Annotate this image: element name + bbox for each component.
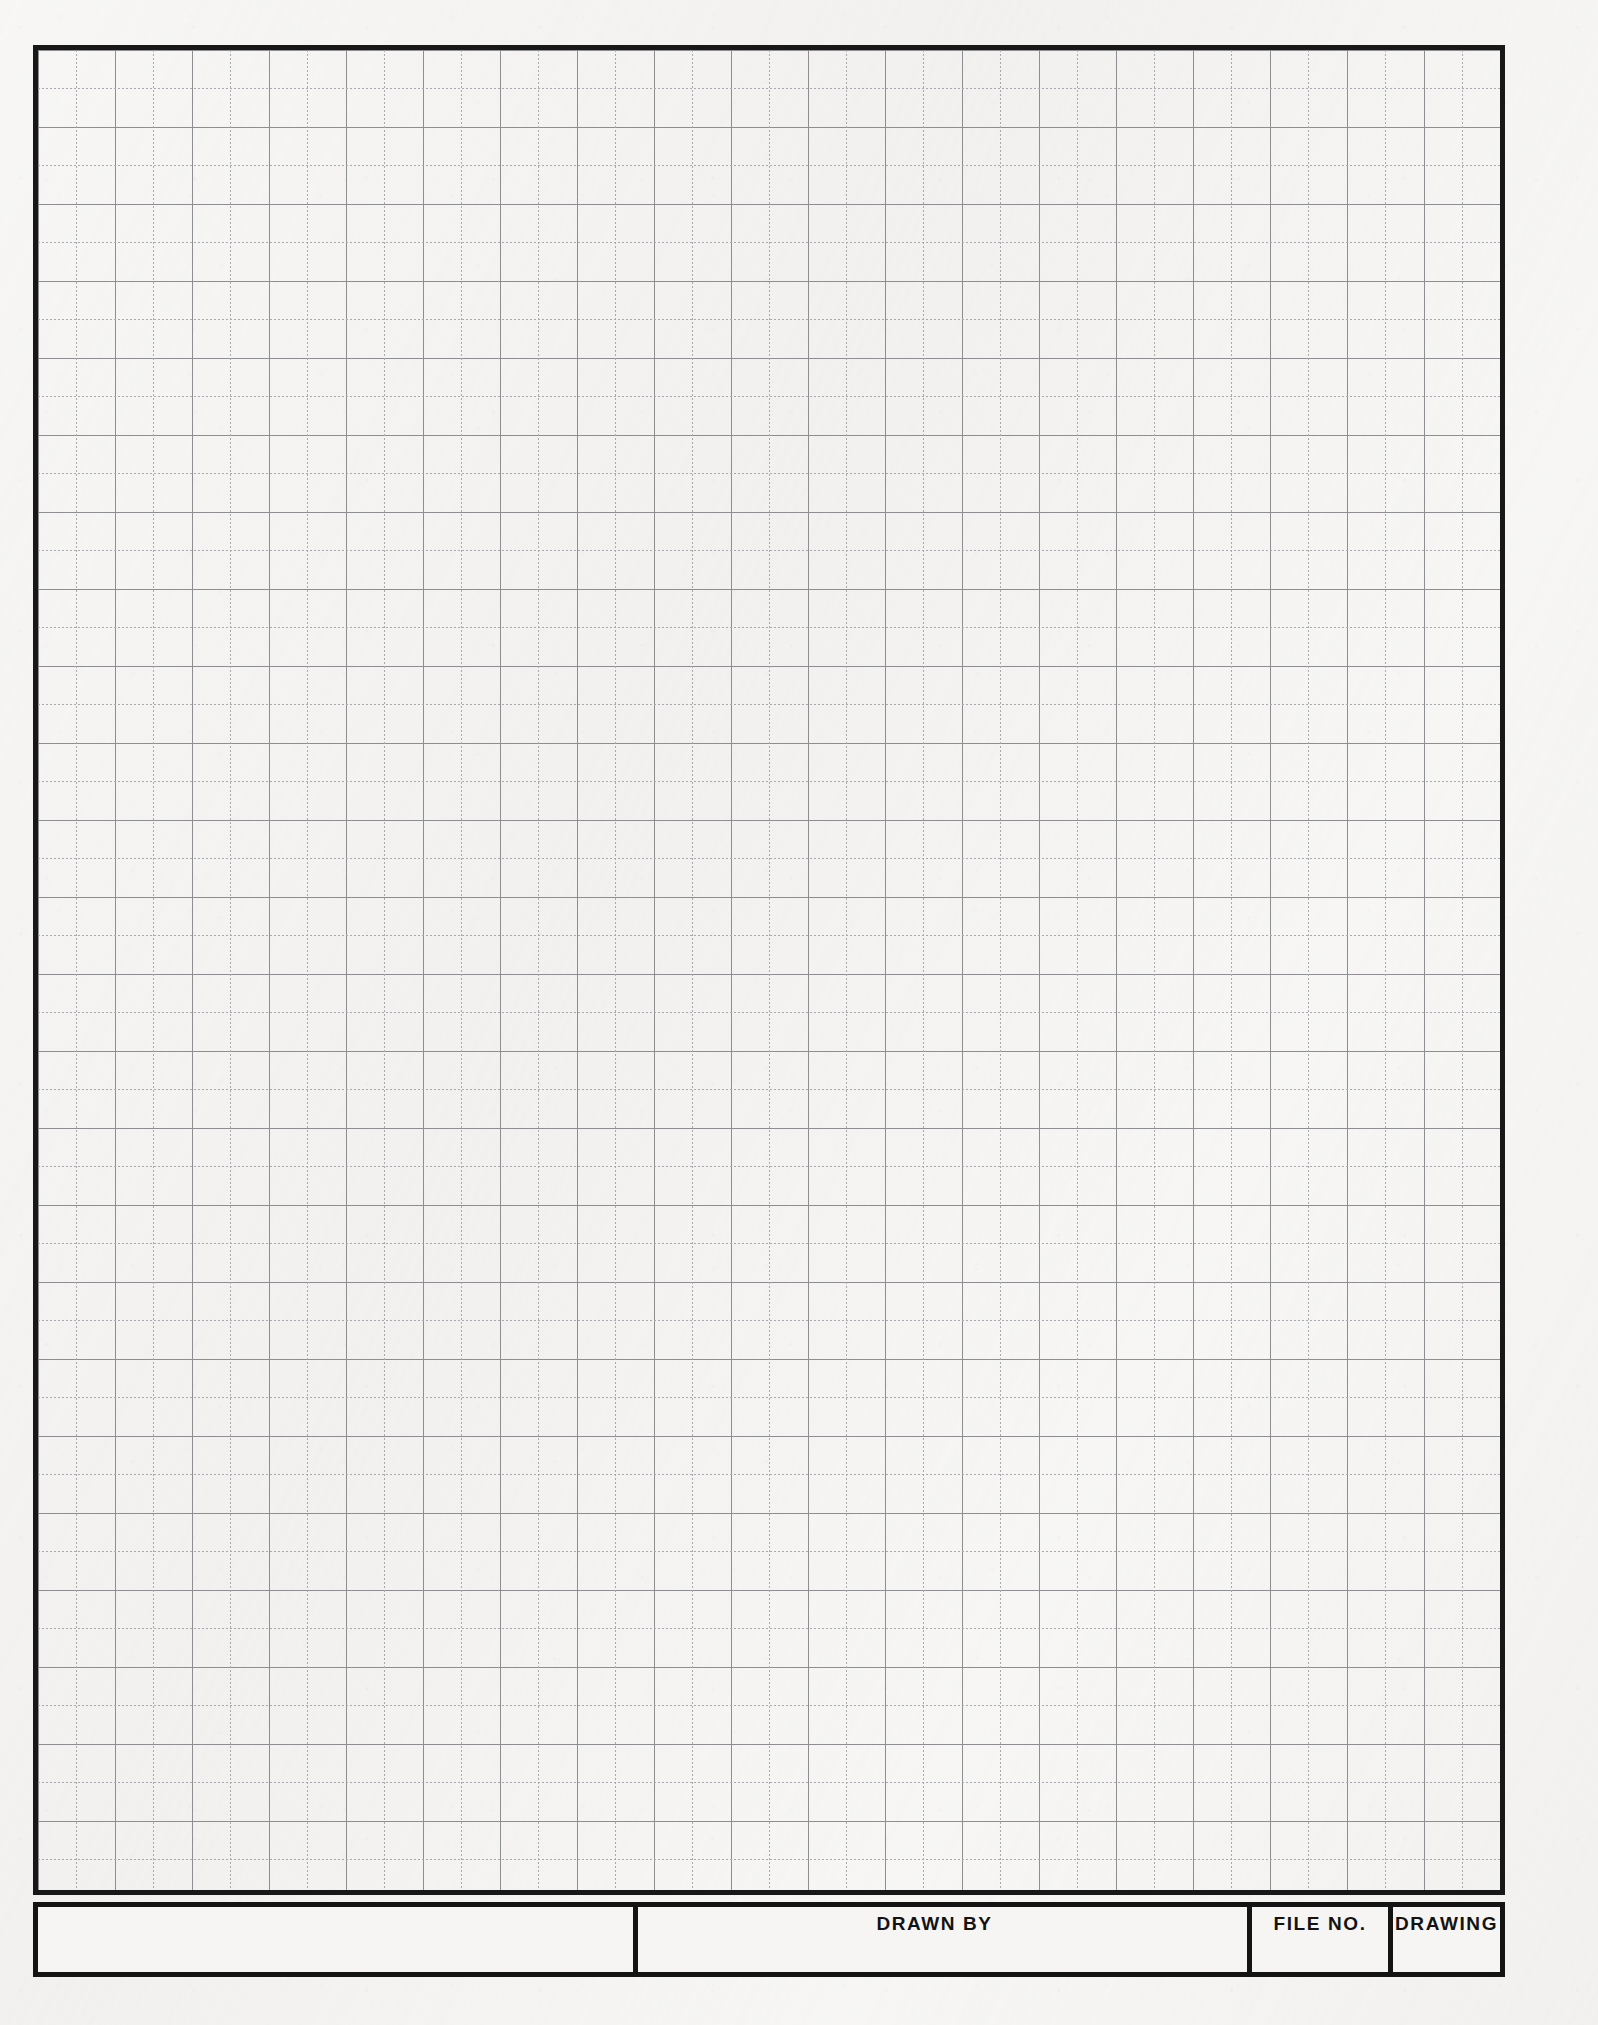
drawing-frame-border: [33, 45, 1505, 1895]
graph-grid: [38, 50, 1500, 1890]
title-block-cell-blank[interactable]: [38, 1907, 633, 1972]
grid-minor-horizontal-lines: [38, 50, 1500, 1890]
title-block-cell-file-no[interactable]: FILE NO.: [1247, 1907, 1388, 1972]
title-block-label-drawn-by: DRAWN BY: [876, 1907, 992, 1935]
graph-paper-page: DRAWN BY FILE NO. DRAWING: [0, 0, 1598, 2025]
title-block-label-file-no: FILE NO.: [1273, 1907, 1366, 1935]
title-block-cell-drawn-by[interactable]: DRAWN BY: [633, 1907, 1247, 1972]
title-block-label-drawing: DRAWING: [1395, 1907, 1498, 1935]
title-block: DRAWN BY FILE NO. DRAWING: [33, 1902, 1505, 1977]
title-block-cell-drawing[interactable]: DRAWING: [1388, 1907, 1500, 1972]
